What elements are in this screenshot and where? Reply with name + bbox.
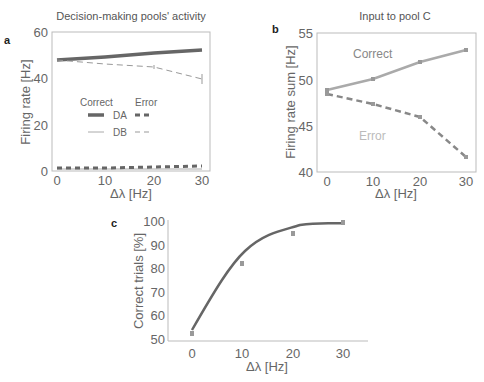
ytick: 70	[151, 285, 165, 300]
panel-b-markers	[325, 48, 468, 159]
panel-b-ylabel: Firing rate sum [Hz]	[283, 45, 298, 158]
panel-b-title: Input to pool C	[359, 10, 431, 22]
xtick: 0	[188, 346, 195, 361]
ytick: 40	[299, 165, 313, 180]
panel-a-legend: Correct Error DA DB	[80, 97, 158, 138]
label-correct: Correct	[353, 47, 393, 61]
figure: a Decision-making pools' activity 0 20 4…	[0, 0, 484, 382]
panel-c-yticks: 50 60 70 80 90 100	[143, 214, 165, 347]
panel-b: b Input to pool C 40 45 50 55 0 10 20 30…	[272, 10, 476, 201]
series-b-correct	[327, 50, 466, 90]
panel-letter-b: b	[272, 23, 279, 35]
panel-letter-a: a	[4, 34, 11, 46]
legend-row-db: DB	[113, 127, 127, 138]
ytick: 45	[299, 119, 313, 134]
ytick: 60	[151, 308, 165, 323]
panel-letter-c: c	[111, 217, 117, 229]
legend-col-error: Error	[135, 97, 158, 108]
series-db-error	[57, 60, 202, 79]
panel-c-xlabel: Δλ [Hz]	[246, 359, 288, 374]
panel-a-title: Decision-making pools' activity	[56, 10, 206, 22]
panel-b-yticks: 40 45 50 55	[299, 26, 313, 180]
ytick: 50	[151, 332, 165, 347]
panel-c-ylabel: Correct trials [%]	[131, 233, 146, 329]
series-da-error	[57, 166, 202, 168]
xtick: 30	[195, 173, 209, 188]
panel-a-yticks: 0 20 40 60	[34, 25, 48, 179]
series-c-fit-curve	[192, 223, 343, 330]
legend-row-da: DA	[113, 110, 127, 121]
panel-a-ylabel: Firing rate [Hz]	[18, 59, 33, 144]
ytick: 80	[151, 261, 165, 276]
panel-a: a Decision-making pools' activity 0 20 4…	[4, 10, 210, 201]
panel-a-axes-box	[52, 32, 210, 171]
ytick: 100	[143, 214, 165, 229]
panel-b-xlabel: Δλ [Hz]	[375, 186, 417, 201]
series-b-error	[327, 94, 466, 157]
panel-c-markers	[190, 220, 345, 336]
xtick: 30	[336, 346, 350, 361]
panel-a-xlabel: Δλ [Hz]	[110, 186, 152, 201]
xtick: 0	[323, 174, 330, 189]
ytick: 40	[34, 71, 48, 86]
ytick: 60	[34, 25, 48, 40]
xtick: 0	[53, 173, 60, 188]
panel-c: c 50 60 70 80 90 100 0 10 20 30 Δλ [Hz] …	[111, 214, 368, 374]
legend-col-correct: Correct	[80, 97, 113, 108]
series-da-correct	[57, 50, 202, 60]
xtick: 30	[459, 174, 473, 189]
ytick: 20	[34, 118, 48, 133]
ytick: 90	[151, 238, 165, 253]
label-error: Error	[359, 129, 386, 143]
ytick: 0	[41, 164, 48, 179]
ytick: 50	[299, 73, 313, 88]
ytick: 55	[299, 26, 313, 41]
